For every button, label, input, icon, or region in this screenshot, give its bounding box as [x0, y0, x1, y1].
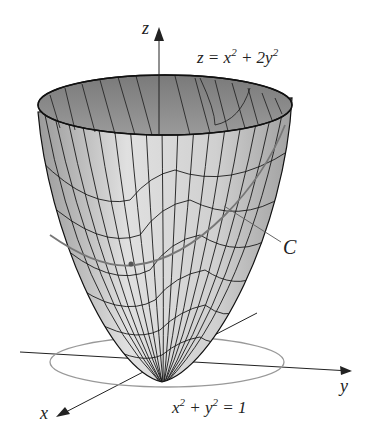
surface-equation: z = x2 + 2y2	[197, 46, 278, 68]
z-axis-arrow-icon	[154, 27, 164, 41]
x-axis-label: x	[40, 403, 48, 424]
circle-equation: x2 + y2 = 1	[172, 396, 247, 418]
curve-c-marker	[129, 262, 134, 267]
paraboloid-surface	[38, 98, 292, 382]
curve-c-label: C	[283, 236, 296, 259]
y-axis-label: y	[340, 376, 348, 397]
y-axis-arrow-icon	[340, 366, 352, 375]
paraboloid-diagram	[0, 0, 377, 440]
z-axis-label: z	[142, 18, 149, 39]
x-axis-arrow-icon	[56, 407, 70, 417]
